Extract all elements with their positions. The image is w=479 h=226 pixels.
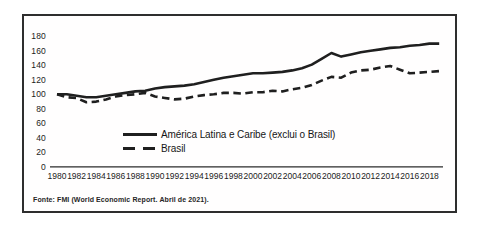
y-tick-label: 140 — [22, 60, 46, 70]
y-tick-label: 60 — [22, 118, 46, 128]
y-tick-label: 160 — [22, 46, 46, 56]
series-line-america-latina — [57, 44, 439, 98]
y-tick-label: 20 — [22, 147, 46, 157]
legend-label-america-latina: América Latina e Caribe (exclui o Brasil… — [161, 129, 335, 140]
y-tick-label: 100 — [22, 89, 46, 99]
legend: América Latina e Caribe (exclui o Brasil… — [123, 128, 335, 155]
line-chart-canvas — [0, 0, 479, 226]
legend-item-brasil: Brasil — [123, 142, 335, 156]
y-tick-label: 80 — [22, 104, 46, 114]
series-line-brasil — [57, 66, 439, 102]
solid-line-swatch — [123, 133, 157, 136]
source-note: Fonte: FMI (World Economic Report. Abril… — [33, 196, 209, 203]
legend-label-brasil: Brasil — [161, 143, 185, 154]
dashed-line-swatch — [123, 147, 157, 150]
chart-screenshot: { "chart_data": { "type": "line", "title… — [0, 0, 479, 226]
legend-item-america-latina: América Latina e Caribe (exclui o Brasil… — [123, 128, 335, 142]
y-tick-label: 180 — [22, 31, 46, 41]
y-tick-label: 40 — [22, 133, 46, 143]
x-tick-label: 2018 — [415, 171, 443, 181]
y-tick-label: 120 — [22, 75, 46, 85]
